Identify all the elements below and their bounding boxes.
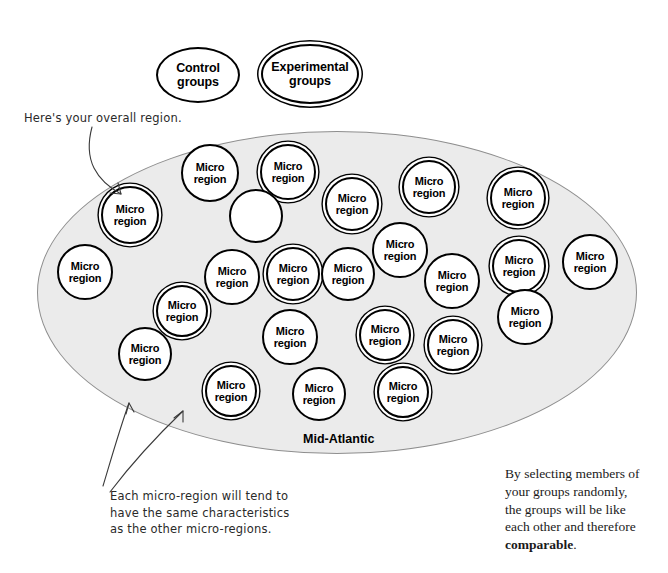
micro-region-label: Micro region (264, 325, 316, 349)
micro-region-label: Micro region (404, 175, 454, 199)
micro-region: Micro region (204, 249, 260, 305)
micro-region-label: Micro region (361, 323, 409, 347)
body-note-line-3: the groups will be like (505, 502, 626, 517)
micro-region-label: Micro region (429, 333, 477, 357)
annotation-micro-region: Each micro-region will tend to have the … (110, 488, 289, 538)
micro-region: Micro region (377, 366, 429, 418)
micro-region-empty (229, 189, 283, 243)
body-note: By selecting members of your groups rand… (505, 465, 668, 554)
micro-region: Micro region (205, 365, 257, 417)
micro-region-label: Micro region (327, 192, 377, 216)
body-note-line-4: each other and therefore (505, 519, 636, 534)
micro-region-label: Micro region (206, 265, 258, 289)
micro-region: Micro region (118, 327, 172, 381)
micro-region: Micro region (490, 170, 546, 226)
micro-region: Micro region (359, 309, 411, 361)
micro-region: Micro region (492, 239, 546, 293)
micro-region-label: Micro region (374, 238, 426, 262)
micro-region-label: Micro region (494, 254, 544, 278)
micro-region: Micro region (427, 319, 479, 371)
micro-region-label: Micro region (183, 161, 237, 185)
micro-region-label: Micro region (207, 379, 255, 403)
micro-region-label: Micro region (294, 382, 344, 406)
micro-region-label: Micro region (323, 262, 373, 286)
micro-region: Micro region (101, 186, 159, 244)
body-note-emphasis: comparable (505, 537, 573, 552)
body-note-line-1: By selecting members of (505, 466, 640, 481)
micro-region: Micro region (292, 367, 346, 421)
arrow-micro-region-left (103, 403, 129, 486)
micro-region: Micro region (562, 234, 618, 290)
micro-region-label: Micro region (262, 160, 314, 184)
micro-region: Micro region (424, 253, 480, 309)
annotation-overall-region: Here's your overall region. (24, 110, 182, 127)
micro-region: Micro region (156, 285, 208, 337)
micro-region: Micro region (266, 247, 320, 301)
diagram-canvas: Control groups Experimental groups Micro… (0, 0, 668, 573)
legend-experimental-groups-label: Experimental groups (271, 60, 348, 89)
micro-region-label: Micro region (59, 260, 111, 284)
legend-control-groups-label: Control groups (176, 61, 220, 90)
micro-region-label: Micro region (426, 269, 478, 293)
legend-control-groups: Control groups (156, 47, 240, 103)
micro-region: Micro region (372, 222, 428, 278)
micro-region: Micro region (262, 309, 318, 365)
micro-region-label: Micro region (158, 299, 206, 323)
micro-region-label: Micro region (103, 203, 157, 227)
micro-region-label: Micro region (492, 186, 544, 210)
micro-region-label: Micro region (499, 305, 551, 329)
micro-region-label: Micro region (379, 380, 427, 404)
micro-region: Micro region (402, 160, 456, 214)
micro-region: Micro region (181, 144, 239, 202)
micro-region: Micro region (325, 177, 379, 231)
micro-region: Micro region (57, 244, 113, 300)
legend-experimental-groups: Experimental groups (261, 44, 359, 104)
body-note-period: . (573, 537, 576, 552)
micro-region: Micro region (321, 247, 375, 301)
region-name-label: Mid-Atlantic (303, 432, 375, 446)
micro-region-label: Micro region (120, 342, 170, 366)
micro-region: Micro region (497, 289, 553, 345)
body-note-line-2: your groups randomly, (505, 484, 627, 499)
micro-region-label: Micro region (564, 250, 616, 274)
micro-region-label: Micro region (268, 262, 318, 286)
